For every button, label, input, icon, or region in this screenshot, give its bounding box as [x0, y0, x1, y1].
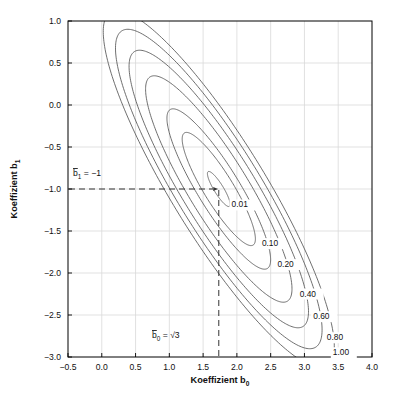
y-tick-label: −3.0	[44, 352, 61, 362]
contour-label: 0.60	[313, 311, 330, 321]
x-tick-label: −0.5	[60, 362, 77, 372]
axis-title-main: Koeffizient b	[191, 375, 247, 385]
contour-label: 0.10	[262, 238, 279, 248]
x-tick-label: 1.0	[163, 362, 175, 372]
axis-title-subscript: 1	[14, 159, 21, 163]
x-tick-label: 0.0	[96, 362, 108, 372]
x-tick-label: 0.5	[130, 362, 142, 372]
vline-rest: =	[160, 330, 170, 340]
contour-label: 1.00	[333, 347, 350, 357]
contour-label: 0.01	[231, 199, 248, 209]
contour-label: 0.80	[327, 332, 344, 342]
x-tick-label: 2.5	[265, 362, 277, 372]
y-tick-label: 1.0	[49, 16, 61, 26]
x-tick-label: 3.0	[298, 362, 310, 372]
y-tick-label: −1.0	[44, 184, 61, 194]
x-tick-label: 4.0	[366, 362, 378, 372]
x-tick-label: 3.5	[332, 362, 344, 372]
y-tick-label: −0.5	[44, 142, 61, 152]
axis-title-main: Koeffizient b	[9, 163, 19, 219]
vline-radical: √3	[170, 330, 180, 340]
vline-annotation-label: b0 = √3	[152, 330, 180, 342]
y-tick-label: −1.5	[44, 226, 61, 236]
page-caption	[0, 386, 399, 408]
y-tick-label: 0.0	[49, 100, 61, 110]
y-tick-label: −2.0	[44, 268, 61, 278]
x-tick-label: 2.0	[231, 362, 243, 372]
contour-label: 0.20	[277, 259, 294, 269]
y-tick-label: −2.5	[44, 310, 61, 320]
contour-label: 0.40	[300, 289, 317, 299]
contour-plot-figure: −0.50.00.51.01.52.02.53.03.54.0 1.00.50.…	[0, 0, 399, 408]
y-tick-label: 0.5	[49, 58, 61, 68]
hline-annotation-label: b1 = −1	[73, 168, 101, 180]
hline-rest: = −1	[81, 168, 101, 178]
plot-svg: −0.50.00.51.01.52.02.53.03.54.0 1.00.50.…	[0, 0, 399, 408]
x-tick-label: 1.5	[197, 362, 209, 372]
